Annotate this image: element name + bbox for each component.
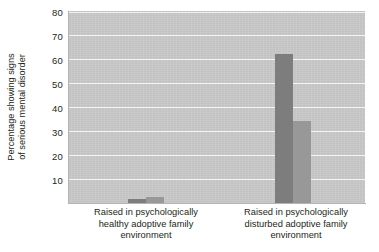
gridline-70 [68,35,365,36]
bar-chart-figure: Percentage showing signs of serious ment… [0,0,379,252]
y-tick-label: 30 [52,127,63,138]
bar-disturbed-series-2 [293,121,311,203]
bar-healthy-series-1 [128,199,146,203]
category-label-line: environment [66,230,226,242]
y-axis-title-line-1: Percentage showing signs [6,53,17,160]
y-axis-tick-labels: 10 20 30 40 50 60 70 80 [36,0,66,252]
x-axis-category-label-healthy: Raised in psychologically healthy adopti… [66,207,226,242]
y-tick-label: 50 [52,79,63,90]
y-axis-title-line-2: of serious mental disorder [17,53,28,160]
gridline-60 [68,59,365,60]
gridline-20 [68,155,365,156]
category-label-line: Raised in psychologically [66,207,226,219]
gridline-80 [68,12,365,13]
y-tick-label: 40 [52,103,63,114]
bar-healthy-series-2 [146,197,164,203]
gridline-10 [68,179,365,180]
gridline-50 [68,83,365,84]
category-label-line: Raised in psychologically [214,207,378,219]
category-label-line: healthy adoptive family [66,219,226,231]
y-axis-title: Percentage showing signs of serious ment… [0,11,34,203]
plot-area [68,11,365,203]
bar-disturbed-series-1 [275,54,293,203]
y-tick-label: 20 [52,151,63,162]
gridline-30 [68,131,365,132]
y-tick-label: 60 [52,55,63,66]
category-label-line: environment [214,230,378,242]
x-axis-category-label-disturbed: Raised in psychologically disturbed adop… [214,207,378,242]
y-tick-label: 10 [52,175,63,186]
y-tick-label: 70 [52,31,63,42]
gridline-40 [68,107,365,108]
y-tick-label: 80 [52,7,63,18]
category-label-line: disturbed adoptive family [214,219,378,231]
